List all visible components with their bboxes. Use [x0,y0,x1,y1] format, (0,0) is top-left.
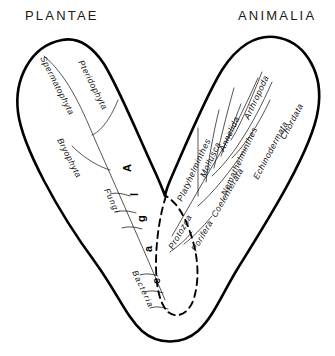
algae-letter-a: A [121,164,133,172]
algae-letter-g: g [135,215,147,222]
algae-letter-a2: a [142,245,154,252]
phylogenetic-v-diagram: Spermatophyta Pteridophyta Bryophyta Fun… [0,0,335,356]
diagram-canvas: PLANTAE ANIMALIA [0,0,335,356]
algae-letter-l: l [128,193,140,196]
v-body-outline [17,37,319,342]
algae-letter-e: e [150,278,162,284]
